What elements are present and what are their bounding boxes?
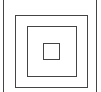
inner-square [43,43,60,60]
diagram-canvas [0,0,101,92]
